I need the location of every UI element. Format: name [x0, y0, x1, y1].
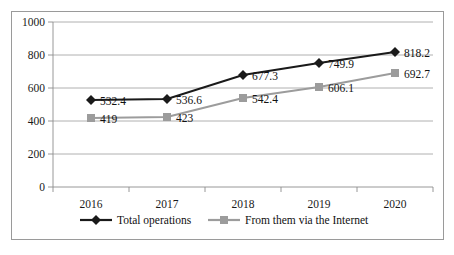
line-chart: 1000 800 600 400 200 0 532.4 536.6 677 — [12, 12, 443, 239]
legend-label-from-them-via-internet: From them via the Internet — [245, 214, 369, 226]
legend-item-from-them-via-internet[interactable]: From them via the Internet — [208, 214, 369, 226]
data-label-total-2020: 818.2 — [404, 47, 430, 59]
chart-container: 1000 800 600 400 200 0 532.4 536.6 677 — [11, 11, 444, 240]
y-tick-label-400: 400 — [28, 115, 46, 127]
x-axis-tickmarks — [53, 187, 433, 192]
y-tick-label-800: 800 — [28, 49, 46, 61]
legend-item-total-operations[interactable]: Total operations — [80, 214, 192, 227]
legend-label-total-operations: Total operations — [117, 214, 192, 227]
y-tick-label-1000: 1000 — [22, 16, 45, 28]
data-label-internet-2016: 419 — [100, 113, 118, 125]
y-tick-label-0: 0 — [39, 181, 45, 193]
data-label-total-2018: 677.3 — [252, 70, 278, 82]
legend-square-marker-icon — [220, 216, 228, 224]
data-label-internet-2017: 423 — [176, 112, 194, 124]
data-label-internet-2018: 542.4 — [252, 93, 278, 105]
legend-diamond-marker-icon — [91, 215, 101, 225]
x-tick-label-2016: 2016 — [80, 198, 103, 210]
gridlines — [53, 22, 433, 154]
y-tick-label-600: 600 — [28, 82, 46, 94]
x-tick-label-2017: 2017 — [156, 198, 179, 210]
data-label-internet-2019: 606.1 — [328, 82, 354, 94]
data-label-total-2016: 532.4 — [100, 95, 126, 107]
y-axis-tickmarks — [48, 22, 53, 187]
data-label-total-2019: 749.9 — [328, 58, 354, 70]
x-tick-label-2019: 2019 — [308, 198, 331, 210]
x-tick-label-2020: 2020 — [384, 198, 407, 210]
y-tick-label-200: 200 — [28, 148, 46, 160]
data-label-total-2017: 536.6 — [176, 94, 202, 106]
data-label-internet-2020: 692.7 — [404, 68, 430, 80]
legend: Total operations From them via the Inter… — [80, 214, 369, 227]
x-tick-label-2018: 2018 — [232, 198, 255, 210]
